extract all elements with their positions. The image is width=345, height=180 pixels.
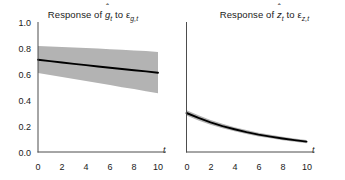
impulse-response-figure: Response of ˆgt to εg,t 1.0 0.8 0.6 0.4 … xyxy=(0,0,345,180)
panel-right-plot xyxy=(172,0,345,180)
panel-left-plot xyxy=(0,0,180,180)
panel-response-z: Response of ˆzt to εz,t 0 2 4 6 8 10 t xyxy=(172,0,345,180)
panel-response-g: Response of ˆgt to εg,t 1.0 0.8 0.6 0.4 … xyxy=(0,0,180,180)
